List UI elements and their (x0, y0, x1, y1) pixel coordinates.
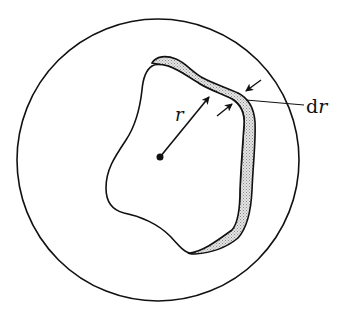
dr-label: dr (306, 95, 327, 117)
r-label: r (175, 104, 184, 125)
dr-arrow-outer (246, 80, 261, 91)
dr-label-r: r (318, 95, 327, 117)
dr-label-d: d (306, 95, 318, 117)
diagram-svg (0, 0, 343, 318)
dr-leader-line (246, 100, 304, 105)
diagram-canvas: r dr (0, 0, 343, 318)
